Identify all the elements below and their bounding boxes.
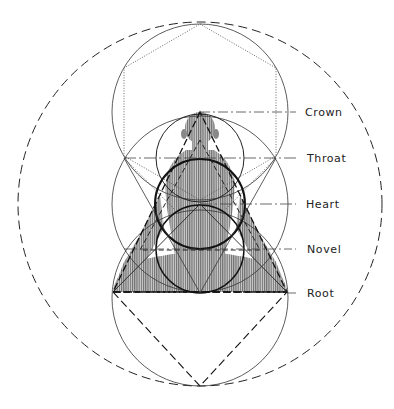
lower-diamond [113, 292, 287, 386]
label-heart: Heart [306, 198, 340, 211]
chakra-labels: Crown Throat Heart Novel Root [305, 106, 346, 300]
label-navel: Novel [307, 243, 341, 256]
label-root: Root [307, 287, 334, 300]
chakra-geometry-diagram: Crown Throat Heart Novel Root [0, 0, 394, 409]
label-crown: Crown [305, 106, 343, 119]
label-throat: Throat [306, 152, 346, 165]
